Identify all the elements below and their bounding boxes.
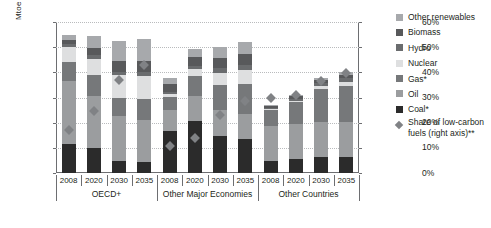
y-axis-unit-label: Mtoe bbox=[14, 1, 23, 20]
bar-segment[interactable] bbox=[163, 84, 177, 92]
bar-stack[interactable] bbox=[112, 22, 126, 173]
y-axis-left-tickmark bbox=[53, 123, 56, 124]
x-axis-tick-label: 2008 bbox=[56, 176, 81, 185]
bar-segment[interactable] bbox=[339, 82, 353, 86]
bar-segment[interactable] bbox=[188, 57, 202, 66]
bar-segment[interactable] bbox=[188, 121, 202, 173]
bar-segment[interactable] bbox=[163, 110, 177, 131]
bar-segment[interactable] bbox=[339, 86, 353, 123]
bar-segment[interactable] bbox=[213, 85, 227, 110]
bar-segment[interactable] bbox=[213, 58, 227, 68]
x-axis-separator bbox=[107, 175, 108, 186]
bar-segment[interactable] bbox=[62, 144, 76, 173]
bar-segment[interactable] bbox=[339, 78, 353, 82]
bar-segment[interactable] bbox=[264, 126, 278, 161]
bar-segment[interactable] bbox=[238, 70, 252, 84]
bar-segment[interactable] bbox=[188, 66, 202, 70]
bar-stack[interactable] bbox=[87, 22, 101, 173]
bar-segment[interactable] bbox=[87, 75, 101, 96]
bar-stack[interactable] bbox=[188, 22, 202, 173]
bar-segment[interactable] bbox=[137, 120, 151, 162]
legend-item[interactable]: Gas* bbox=[396, 72, 491, 87]
bar-segment[interactable] bbox=[339, 157, 353, 173]
bar-segment[interactable] bbox=[238, 65, 252, 70]
bar-segment[interactable] bbox=[289, 101, 303, 102]
x-axis-tick-labels: 2008202020302035200820202030203520082020… bbox=[56, 175, 359, 187]
x-axis-separator bbox=[182, 175, 183, 186]
bar-segment[interactable] bbox=[87, 96, 101, 147]
bar-stack[interactable] bbox=[137, 22, 151, 173]
bar-stack[interactable] bbox=[314, 22, 328, 173]
bar-segment[interactable] bbox=[87, 148, 101, 173]
bar-segment[interactable] bbox=[112, 98, 126, 116]
bar-segment[interactable] bbox=[62, 62, 76, 81]
x-axis-group-label: Other Major Economies bbox=[157, 189, 258, 199]
bar-segment[interactable] bbox=[213, 68, 227, 73]
x-axis-tick-label: 2020 bbox=[283, 176, 308, 185]
bar-segment[interactable] bbox=[339, 122, 353, 156]
bar-segment[interactable] bbox=[264, 109, 278, 110]
bar-segment[interactable] bbox=[264, 108, 278, 110]
legend-item[interactable]: Hydro bbox=[396, 41, 491, 56]
bar-segment[interactable] bbox=[264, 161, 278, 173]
legend-item[interactable]: Coal* bbox=[396, 102, 491, 117]
bar-segment[interactable] bbox=[289, 159, 303, 173]
bar-segment[interactable] bbox=[289, 124, 303, 159]
bar-segment[interactable] bbox=[264, 110, 278, 126]
bar-stack[interactable] bbox=[62, 22, 76, 173]
bar-segment[interactable] bbox=[188, 69, 202, 76]
bar-segment[interactable] bbox=[238, 42, 252, 54]
chart-container: Mtoe 00%1 00010%2 00020%3 00030%4 00040%… bbox=[0, 0, 491, 228]
bar-segment[interactable] bbox=[62, 40, 76, 45]
bar-segment[interactable] bbox=[87, 59, 101, 75]
bar-segment[interactable] bbox=[314, 122, 328, 157]
bar-segment[interactable] bbox=[112, 41, 126, 62]
bar-segment[interactable] bbox=[264, 105, 278, 108]
legend-item[interactable]: Biomass bbox=[396, 25, 491, 40]
bar-segment[interactable] bbox=[289, 102, 303, 124]
bar-segment[interactable] bbox=[188, 76, 202, 96]
bar-segment[interactable] bbox=[238, 54, 252, 65]
bar-segment[interactable] bbox=[213, 136, 227, 173]
bar-segment[interactable] bbox=[314, 86, 328, 89]
legend-item[interactable]: Other renewables bbox=[396, 10, 491, 25]
bar-segment[interactable] bbox=[188, 49, 202, 57]
bar-segment[interactable] bbox=[87, 48, 101, 55]
bar-segment[interactable] bbox=[163, 94, 177, 97]
bar-stack[interactable] bbox=[213, 22, 227, 173]
bar-segment[interactable] bbox=[163, 131, 177, 173]
bar-segment[interactable] bbox=[137, 72, 151, 76]
bar-segment[interactable] bbox=[163, 78, 177, 84]
group-separator bbox=[157, 175, 158, 201]
legend-item[interactable]: Share of low-carbon fuels (right axis)** bbox=[396, 118, 491, 133]
bar-segment[interactable] bbox=[314, 157, 328, 173]
bar-segment[interactable] bbox=[238, 139, 252, 173]
bar-segment[interactable] bbox=[62, 47, 76, 62]
bar-segment[interactable] bbox=[62, 44, 76, 47]
legend-item[interactable]: Nuclear bbox=[396, 56, 491, 71]
bar-segment[interactable] bbox=[238, 114, 252, 139]
bar-segment[interactable] bbox=[213, 73, 227, 85]
bar-segment[interactable] bbox=[112, 61, 126, 71]
bar-segment[interactable] bbox=[87, 36, 101, 48]
legend-swatch-icon bbox=[396, 44, 403, 51]
legend-item[interactable]: Oil bbox=[396, 87, 491, 102]
bar-segment[interactable] bbox=[213, 47, 227, 58]
y-axis-left-tickmark bbox=[53, 22, 56, 23]
bar-segment[interactable] bbox=[137, 76, 151, 100]
bar-segment[interactable] bbox=[137, 39, 151, 61]
bar-segment[interactable] bbox=[163, 97, 177, 110]
bar-segment[interactable] bbox=[188, 96, 202, 121]
bar-segment[interactable] bbox=[112, 116, 126, 161]
bar-segment[interactable] bbox=[87, 55, 101, 58]
bar-segment[interactable] bbox=[314, 89, 328, 121]
bar-stack[interactable] bbox=[339, 22, 353, 173]
bar-segment[interactable] bbox=[112, 161, 126, 173]
legend-label: Nuclear bbox=[408, 56, 437, 70]
bar-segment[interactable] bbox=[137, 99, 151, 120]
bar-segment[interactable] bbox=[163, 92, 177, 94]
x-axis-tick-label: 2035 bbox=[334, 176, 359, 185]
bar-segment[interactable] bbox=[62, 35, 76, 40]
x-axis-separator bbox=[208, 175, 209, 186]
bar-segment[interactable] bbox=[137, 162, 151, 173]
